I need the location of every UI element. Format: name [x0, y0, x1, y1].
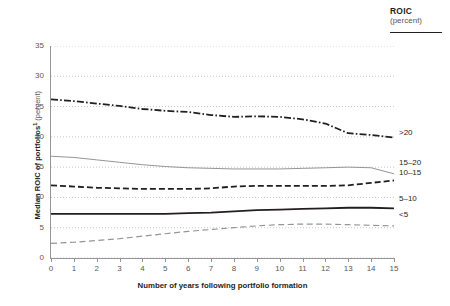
series-line-<5	[51, 224, 394, 243]
x-tick-mark	[97, 258, 98, 262]
x-tick-mark	[394, 258, 395, 262]
x-tick-mark	[74, 258, 75, 262]
series-line-15–20	[51, 156, 394, 174]
x-tick-label: 6	[178, 264, 198, 273]
x-tick-mark	[257, 258, 258, 262]
x-tick-mark	[211, 258, 212, 262]
y-tick-label: 25	[20, 102, 44, 111]
series-line->20	[51, 99, 394, 137]
series-label-5-10: 5–10	[399, 194, 417, 203]
y-tick-label: 10	[20, 192, 44, 201]
legend-header-title: ROIC	[390, 6, 448, 16]
x-tick-mark	[348, 258, 349, 262]
y-tick-label: 30	[20, 71, 44, 80]
x-tick-mark	[325, 258, 326, 262]
series-canvas	[51, 46, 394, 258]
x-tick-label: 4	[132, 264, 152, 273]
x-tick-mark	[234, 258, 235, 262]
series-label-lt5: <5	[399, 210, 408, 219]
y-tick-label: 15	[20, 162, 44, 171]
x-tick-label: 2	[87, 264, 107, 273]
x-tick-label: 13	[338, 264, 358, 273]
y-tick-label: 35	[20, 41, 44, 50]
x-tick-mark	[120, 258, 121, 262]
x-tick-mark	[51, 258, 52, 262]
y-tick-label: 20	[20, 132, 44, 141]
legend-header-subtitle: (percent)	[390, 16, 448, 26]
x-tick-mark	[188, 258, 189, 262]
x-tick-label: 3	[110, 264, 130, 273]
series-line-10–15	[51, 180, 394, 188]
x-tick-label: 7	[201, 264, 221, 273]
x-tick-label: 1	[64, 264, 84, 273]
x-tick-mark	[371, 258, 372, 262]
series-label-15-20: 15–20	[399, 158, 421, 167]
plot-area	[51, 46, 394, 258]
x-axis-line	[50, 258, 395, 259]
x-tick-label: 5	[155, 264, 175, 273]
x-tick-mark	[303, 258, 304, 262]
x-tick-mark	[280, 258, 281, 262]
y-axis-title: Median ROIC of portfolios1 (percent)	[32, 70, 43, 240]
chart-figure: ROIC (percent) Median ROIC of portfolios…	[0, 0, 450, 306]
x-tick-mark	[142, 258, 143, 262]
x-tick-label: 10	[270, 264, 290, 273]
series-label-gt20: >20	[399, 128, 413, 137]
y-tick-label: 0	[20, 253, 44, 262]
x-tick-label: 15	[384, 264, 404, 273]
legend-header: ROIC (percent)	[390, 6, 448, 26]
series-line-5–10	[51, 208, 394, 214]
x-tick-mark	[165, 258, 166, 262]
x-tick-label: 11	[293, 264, 313, 273]
y-tick-label: 5	[20, 223, 44, 232]
x-axis-title: Number of years following portfolio form…	[51, 281, 394, 290]
x-tick-label: 9	[247, 264, 267, 273]
x-tick-label: 12	[315, 264, 335, 273]
series-label-10-15: 10–15	[399, 168, 421, 177]
x-tick-label: 0	[41, 264, 61, 273]
legend-divider	[390, 32, 442, 33]
x-tick-label: 8	[224, 264, 244, 273]
x-tick-label: 14	[361, 264, 381, 273]
